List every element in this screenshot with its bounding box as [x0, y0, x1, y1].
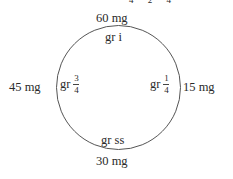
- left-inner-label: gr 3 4: [60, 74, 79, 95]
- right-fraction-denominator: 4: [164, 86, 169, 95]
- top-inner-label: gr i: [105, 31, 122, 44]
- top-outer-label: 60 mg: [96, 12, 128, 25]
- bottom-outer-label: 30 mg: [96, 155, 128, 168]
- right-fraction: 1 4: [163, 74, 169, 95]
- left-fraction: 3 4: [73, 74, 79, 95]
- right-inner-prefix: gr: [150, 78, 160, 91]
- bottom-inner-label: gr ss: [101, 134, 124, 147]
- left-fraction-numerator: 3: [74, 74, 79, 83]
- left-outer-label: 45 mg: [9, 81, 41, 94]
- right-outer-label: 15 mg: [183, 81, 215, 94]
- right-fraction-numerator: 1: [164, 74, 169, 83]
- left-fraction-denominator: 4: [74, 86, 79, 95]
- left-inner-prefix: gr: [60, 78, 70, 91]
- right-inner-label: gr 1 4: [150, 74, 169, 95]
